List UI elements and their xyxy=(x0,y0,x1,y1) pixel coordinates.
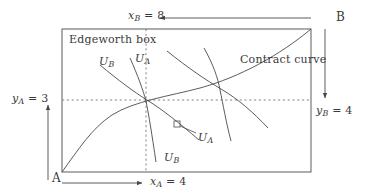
label-x-a: xA = 4 xyxy=(150,176,186,189)
label-x-b-value: 8 xyxy=(157,9,164,22)
label-origin-a-text: A xyxy=(52,171,61,185)
indifference-curve-u-a-1 xyxy=(130,58,156,162)
marker-leader-line xyxy=(180,126,196,133)
label-contract-curve: Contract curve xyxy=(240,54,326,65)
label-u-a-upper-sub: A xyxy=(144,57,150,66)
label-u-b-upper-sub: B xyxy=(108,60,114,69)
edgeworth-box-figure: xB = 8 B Edgeworth box Contract curve UB… xyxy=(0,0,366,194)
label-u-b-lower-sub: B xyxy=(173,156,179,165)
label-y-b-eq: = xyxy=(328,104,345,117)
label-x-b: xB = 8 xyxy=(128,10,164,23)
label-y-b-value: 4 xyxy=(345,104,352,117)
label-y-a-eq: = xyxy=(24,92,41,105)
label-x-b-eq: = xyxy=(140,9,157,22)
label-u-a-lower-sub: A xyxy=(207,136,213,145)
label-x-a-eq: = xyxy=(162,175,179,188)
indifference-curve-u-a-2 xyxy=(204,48,231,141)
label-y-a-value: 3 xyxy=(41,92,48,105)
label-u-b-upper: UB xyxy=(99,56,115,69)
label-u-b-lower: UB xyxy=(164,152,180,165)
indifference-curve-u-b-1 xyxy=(100,65,199,140)
diagram-canvas xyxy=(0,0,366,194)
label-origin-b: B xyxy=(336,11,345,23)
edgeworth-box-rect xyxy=(62,29,311,172)
label-edgeworth-box: Edgeworth box xyxy=(69,34,156,45)
label-origin-a: A xyxy=(52,172,61,184)
label-contract-curve-text: Contract curve xyxy=(240,53,326,66)
label-edgeworth-box-text: Edgeworth box xyxy=(69,33,156,46)
label-y-b: yB = 4 xyxy=(316,105,352,118)
label-origin-b-text: B xyxy=(336,10,345,24)
label-u-a-upper: UA xyxy=(135,53,150,66)
label-x-a-value: 4 xyxy=(179,175,186,188)
label-y-a: yA = 3 xyxy=(12,93,48,106)
label-u-a-lower: UA xyxy=(198,132,213,145)
contract-curve-path xyxy=(62,29,311,172)
